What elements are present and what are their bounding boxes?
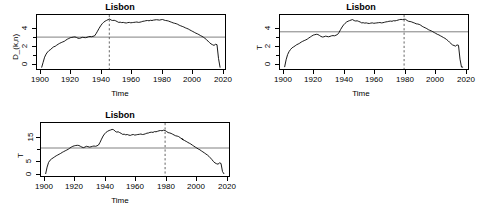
panel-1-svg <box>37 15 225 69</box>
panel-2-xtick-2020: 2020 <box>457 75 475 84</box>
panel-2-xtickmark-1980 <box>405 70 406 74</box>
panel-1-xtick-1900: 1900 <box>31 75 49 84</box>
panel-3-xtick-2000: 2000 <box>187 182 205 191</box>
panel-2-series-line <box>285 19 464 67</box>
panel-3-xtickmark-2000 <box>196 177 197 181</box>
panel-3-ytick-0: 0 <box>24 172 33 176</box>
panel-1-ytick-2: 2 <box>20 44 29 48</box>
panel-3-xtick-1940: 1940 <box>96 182 114 191</box>
plot-panel-2: Lisbon T 0 2 4 1900 1920 1940 1960 1980 … <box>241 0 481 103</box>
panel-3-xtickmark-1980 <box>166 177 167 181</box>
panel-3-xtick-1900: 1900 <box>35 182 53 191</box>
panel-1-xtick-1980: 1980 <box>153 75 171 84</box>
panel-1-xtickmark-2020 <box>223 70 224 74</box>
panel-3-y-axis-label: T <box>16 153 25 158</box>
panel-1-xtick-1960: 1960 <box>122 75 140 84</box>
panel-3-xtick-1980: 1980 <box>157 182 175 191</box>
panel-2-xtick-2000: 2000 <box>426 75 444 84</box>
panel-3-svg <box>41 123 229 176</box>
panel-2-x-axis-label: Time <box>241 89 481 98</box>
panel-1-xtickmark-1900 <box>40 70 41 74</box>
panel-2-plot-area <box>279 14 469 70</box>
panel-3-xtick-2020: 2020 <box>218 182 236 191</box>
panel-1-xtickmark-2000 <box>192 70 193 74</box>
plot-panel-1: Lisbon D_(k,n) 0 2 4 1900 1920 1940 1960… <box>0 0 240 103</box>
panel-2-xtickmark-2000 <box>435 70 436 74</box>
panel-3-title: Lisbon <box>0 110 240 120</box>
panel-3-xtick-1920: 1920 <box>65 182 83 191</box>
panel-2-xtick-1920: 1920 <box>304 75 322 84</box>
panel-3-xtick-1960: 1960 <box>126 182 144 191</box>
panel-2-xtickmark-1960 <box>374 70 375 74</box>
panel-3-plot-area <box>40 122 230 177</box>
panel-3-x-axis-label: Time <box>0 196 240 205</box>
panel-1-xtickmark-1920 <box>70 70 71 74</box>
panel-3-ytick-5: 5 <box>24 159 33 163</box>
panel-2-xtickmark-1900 <box>283 70 284 74</box>
panel-2-xtick-1900: 1900 <box>274 75 292 84</box>
panel-1-xtickmark-1960 <box>131 70 132 74</box>
panel-1-xtick-2020: 2020 <box>214 75 232 84</box>
panel-1-xtick-1920: 1920 <box>61 75 79 84</box>
panel-1-xtick-1940: 1940 <box>92 75 110 84</box>
panel-1-ytick-0: 0 <box>20 62 29 66</box>
panel-3-xtickmark-1960 <box>135 177 136 181</box>
panel-1-xtickmark-1980 <box>162 70 163 74</box>
panel-1-ytick-4: 4 <box>20 26 29 30</box>
panel-1-x-axis-label: Time <box>0 89 240 98</box>
panel-1-xtick-2000: 2000 <box>183 75 201 84</box>
panel-2-xtick-1940: 1940 <box>335 75 353 84</box>
panel-2-ytick-4: 4 <box>263 26 272 30</box>
panel-2-xtick-1960: 1960 <box>365 75 383 84</box>
panel-3-xtickmark-2020 <box>227 177 228 181</box>
panel-3-xtickmark-1920 <box>74 177 75 181</box>
panel-1-series-line <box>42 19 221 68</box>
panel-1-title: Lisbon <box>0 2 240 12</box>
panel-2-xtickmark-2020 <box>466 70 467 74</box>
panel-1-y-axis-label: D_(k,n) <box>11 34 20 60</box>
panel-3-xtickmark-1900 <box>44 177 45 181</box>
panel-2-xtick-1980: 1980 <box>396 75 414 84</box>
panel-2-ytick-2: 2 <box>263 44 272 48</box>
panel-2-xtickmark-1940 <box>344 70 345 74</box>
panel-2-title: Lisbon <box>241 2 481 12</box>
panel-3-xtickmark-1940 <box>105 177 106 181</box>
panel-2-xtickmark-1920 <box>313 70 314 74</box>
panel-3-ytick-15: 15 <box>26 133 35 142</box>
plot-panel-3: Lisbon T 0 5 15 1900 1920 1940 1960 1980… <box>0 104 240 213</box>
panel-1-plot-area <box>36 14 226 70</box>
panel-1-xtickmark-1940 <box>101 70 102 74</box>
panel-3-series-line <box>46 129 225 174</box>
panel-2-ytick-0: 0 <box>263 62 272 66</box>
panel-2-svg <box>280 15 468 69</box>
